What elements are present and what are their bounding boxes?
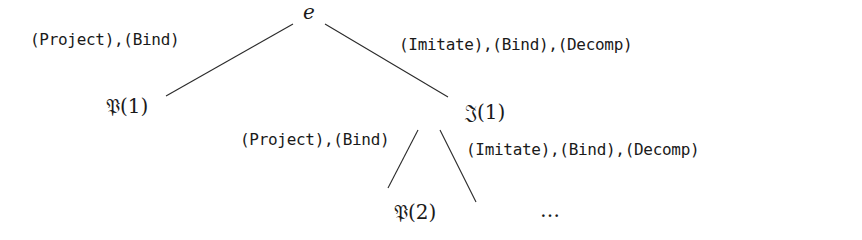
derivation-tree: e (Project),(Bind) (Imitate),(Bind),(Dec… [0,0,862,240]
node-i1: 𝔍(1) [465,100,505,124]
root-node-e: e [303,0,315,24]
edge-label-root-left: (Project),(Bind) [30,30,179,49]
node-p2: 𝔓(2) [394,200,436,224]
edge-label-i1-right: (Imitate),(Bind),(Decomp) [466,140,699,159]
node-ellipsis: … [540,198,560,222]
edge-label-root-right: (Imitate),(Bind),(Decomp) [399,35,632,54]
edge-i1-to-p2 [388,130,418,188]
edge-label-i1-left: (Project),(Bind) [240,130,389,149]
edge-root-to-p1 [166,24,293,96]
node-p1: 𝔓(1) [106,94,148,118]
